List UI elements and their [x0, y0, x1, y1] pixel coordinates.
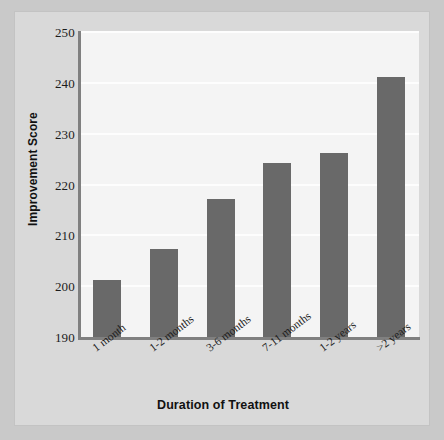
bar-slot	[306, 32, 363, 337]
x-axis-title: Duration of Treatment	[15, 398, 431, 412]
x-axis-tick-labels: 1 month1-2 months3-6 months7-11 months1-…	[79, 342, 419, 404]
bar[interactable]	[207, 199, 235, 337]
y-axis-tick-label: 190	[31, 331, 75, 344]
bar-slot	[79, 32, 136, 337]
y-axis-tick-label: 250	[31, 26, 75, 39]
y-axis-tick-label: 240	[31, 76, 75, 89]
y-axis-tick-label: 200	[31, 280, 75, 293]
x-axis-line	[78, 337, 420, 340]
bar-slot	[362, 32, 419, 337]
bar-slot	[136, 32, 193, 337]
y-axis-title: Improvement Score	[26, 99, 40, 239]
bar[interactable]	[320, 153, 348, 337]
bar[interactable]	[377, 77, 405, 337]
bar-slot	[192, 32, 249, 337]
bar-series	[79, 32, 419, 337]
bar-slot	[249, 32, 306, 337]
chart-figure-card: 190200210220230240250 1 month1-2 months3…	[14, 11, 430, 426]
bar[interactable]	[263, 163, 291, 337]
